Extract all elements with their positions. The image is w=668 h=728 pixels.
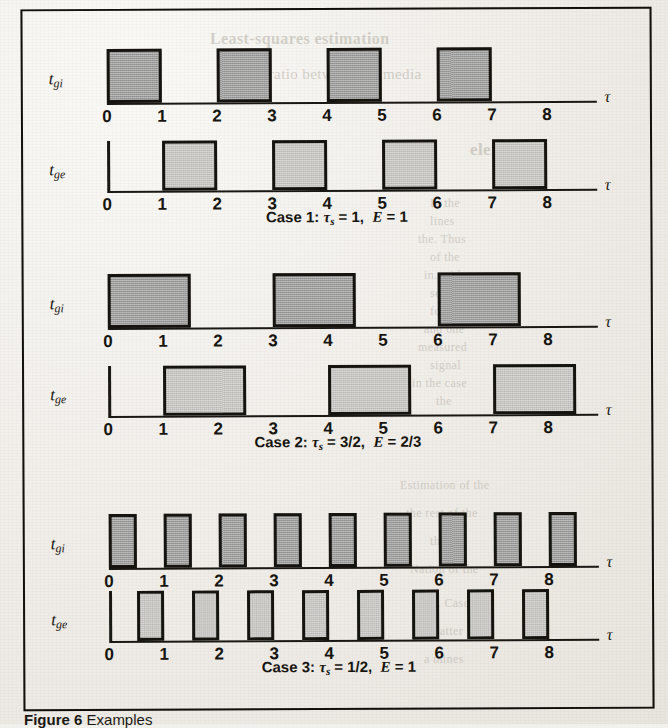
pulse: [438, 272, 521, 326]
case-caption-1: Case 1: τs = 1, E = 1: [23, 207, 650, 229]
origin-tick-mark: [109, 591, 112, 641]
x-axis-tick-label: 6: [429, 571, 449, 591]
x-axis-tick-label: 3: [262, 106, 282, 126]
x-axis-tau-label: τ: [605, 176, 611, 194]
x-axis-tick-label: 7: [484, 570, 504, 590]
x-axis-tick-label: 0: [97, 107, 117, 127]
y-axis-label-subscript: ge: [54, 167, 65, 181]
x-axis-tick-label: 5: [374, 571, 394, 591]
x-axis-tau-label: τ: [606, 553, 612, 571]
pulse: [302, 590, 330, 640]
pulse: [494, 512, 522, 566]
x-axis-tick-label: 8: [538, 330, 558, 350]
x-axis-line: [109, 639, 599, 643]
origin-tick-mark: [108, 366, 111, 416]
pulse: [382, 140, 437, 190]
x-axis-tick-label: 4: [317, 106, 337, 126]
pulse: [328, 365, 411, 415]
pulse: [522, 589, 550, 639]
efficiency-symbol: E: [372, 209, 382, 225]
pulse: [107, 49, 162, 103]
pulse: [492, 139, 547, 189]
x-axis-tick-label: 7: [483, 330, 503, 350]
pulse: [219, 513, 247, 567]
x-axis-tick-label: 2: [207, 106, 227, 126]
figure-inner: tgiτ012345678tgeτ012345678tgiτ012345678t…: [22, 9, 652, 710]
pulse: [137, 591, 165, 641]
pulse: [467, 589, 495, 639]
tau-subscript: s: [319, 440, 323, 452]
case-caption-2: Case 2: τs = 3/2, E = 2/3: [24, 432, 651, 454]
y-axis-label-t-gi: tgi: [50, 294, 64, 316]
figure-frame: tgiτ012345678tgeτ012345678tgiτ012345678t…: [20, 7, 654, 712]
x-axis-tick-label: 4: [319, 571, 339, 591]
x-axis-tick-label: 4: [318, 331, 338, 351]
figure-caption-rest: Examples: [87, 711, 153, 728]
pulse: [272, 140, 327, 190]
origin-tick-mark: [107, 141, 110, 191]
pulse: [217, 48, 272, 102]
x-axis-tick-label: 5: [373, 331, 393, 351]
pulse: [493, 364, 576, 414]
x-axis-tau-label: τ: [605, 313, 611, 331]
efficiency-value: = 1: [387, 208, 408, 225]
pulse: [163, 365, 246, 415]
tau-value: = 1/2,: [334, 658, 372, 675]
efficiency-value: = 2/3: [388, 433, 422, 450]
y-axis-label-subscript: ge: [55, 392, 66, 406]
case-label: Case 2:: [254, 433, 307, 450]
efficiency-symbol: E: [373, 434, 383, 450]
x-axis-tick-label: 7: [482, 105, 502, 125]
tau-value: = 3/2,: [327, 433, 365, 450]
x-axis-tick-label: 2: [209, 571, 229, 591]
x-axis-tick-label: 8: [537, 105, 557, 125]
pulse: [439, 512, 467, 566]
case-label: Case 1:: [266, 208, 319, 225]
pulse: [357, 590, 385, 640]
case-label: Case 3:: [262, 658, 315, 675]
x-axis-tick-label: 2: [208, 331, 228, 351]
pulse: [412, 590, 440, 640]
x-axis-tau-label: τ: [606, 401, 612, 419]
x-axis-tau-label: τ: [604, 88, 610, 106]
pulse: [273, 273, 356, 327]
pulse: [327, 48, 382, 102]
case-caption-3: Case 3: τs = 1/2, E = 1: [25, 657, 652, 679]
x-axis-tick-label: 1: [153, 332, 173, 352]
pulse: [549, 512, 577, 566]
figure-caption: Figure 6 Examples: [24, 711, 152, 728]
x-axis-tick-label: 8: [539, 570, 559, 590]
pulse: [247, 590, 275, 640]
tau-subscript: s: [326, 665, 330, 677]
y-axis-label-t-ge: tge: [51, 610, 67, 632]
tau-value: = 1,: [339, 208, 365, 225]
y-axis-label-subscript: gi: [53, 76, 62, 90]
figure-caption-prefix: Figure 6: [24, 711, 82, 728]
pulse: [274, 513, 302, 567]
y-axis-label-t-ge: tge: [49, 160, 65, 182]
y-axis-label-subscript: gi: [56, 541, 65, 555]
pulse: [109, 514, 137, 568]
x-axis-tau-label: τ: [607, 626, 613, 644]
pulse: [192, 591, 220, 641]
efficiency-symbol: E: [381, 659, 391, 675]
pulse: [164, 514, 192, 568]
pulse: [162, 141, 217, 191]
x-axis-tick-label: 6: [428, 331, 448, 351]
pulse: [329, 513, 357, 567]
x-axis-tick-label: 0: [99, 572, 119, 592]
pulse: [384, 513, 412, 567]
y-axis-label-t-gi: tgi: [51, 534, 65, 556]
x-axis-tick-label: 0: [98, 332, 118, 352]
pulse: [437, 47, 492, 101]
x-axis-tick-label: 3: [264, 571, 284, 591]
pulse: [108, 274, 191, 328]
x-axis-tick-label: 3: [263, 331, 283, 351]
y-axis-label-subscript: gi: [54, 301, 63, 315]
x-axis-tick-label: 5: [372, 106, 392, 126]
x-axis-tick-label: 1: [154, 572, 174, 592]
efficiency-value: = 1: [395, 658, 416, 675]
tau-subscript: s: [330, 215, 334, 227]
x-axis-tick-label: 1: [152, 107, 172, 127]
